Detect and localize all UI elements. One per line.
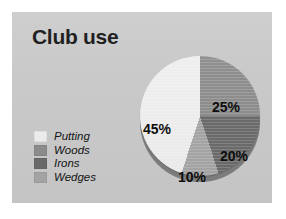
pie-chart[interactable]: 25% 20% 10% 45% xyxy=(138,48,266,188)
legend-swatch-putting xyxy=(34,131,47,142)
legend-label-irons: Irons xyxy=(54,158,80,170)
slice-label-wedges: 10% xyxy=(178,170,206,184)
legend-label-putting: Putting xyxy=(54,131,90,143)
legend-swatch-irons xyxy=(34,158,47,169)
slice-label-putting: 45% xyxy=(143,122,171,136)
legend-label-wedges: Wedges xyxy=(54,172,96,184)
page-title: Club use xyxy=(32,26,118,47)
chart-legend: Putting Woods Irons Wedges xyxy=(34,130,134,184)
legend-item-putting[interactable]: Putting xyxy=(34,130,134,144)
legend-label-woods: Woods xyxy=(54,145,90,157)
legend-swatch-woods xyxy=(34,145,47,156)
legend-item-irons[interactable]: Irons xyxy=(34,157,134,171)
legend-item-wedges[interactable]: Wedges xyxy=(34,171,134,185)
slide-panel: Club use Putting Woods Irons Wedges xyxy=(12,12,272,203)
slide-screen: Club use Putting Woods Irons Wedges xyxy=(0,0,286,219)
slice-label-woods: 25% xyxy=(212,100,240,114)
slice-label-irons: 20% xyxy=(220,149,248,163)
legend-item-woods[interactable]: Woods xyxy=(34,144,134,158)
legend-swatch-wedges xyxy=(34,172,47,183)
